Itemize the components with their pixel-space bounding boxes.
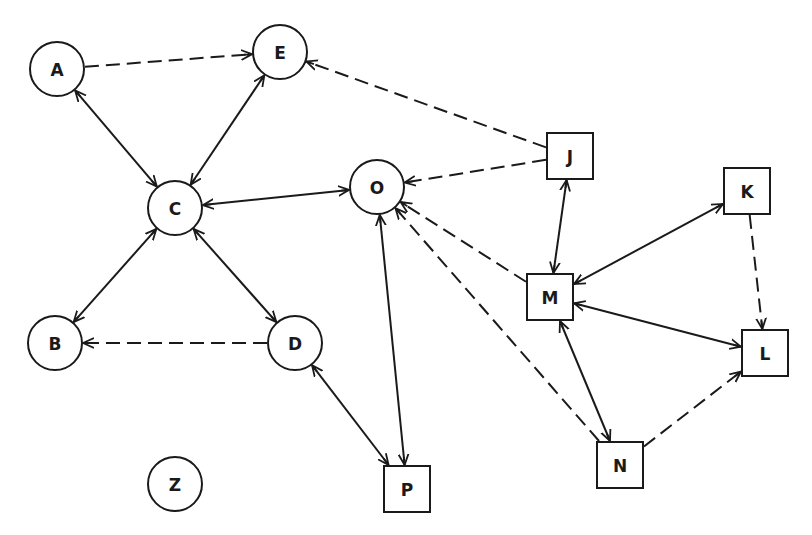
node-b: B	[28, 316, 82, 370]
node-label: C	[169, 199, 181, 219]
node-label: K	[740, 182, 754, 202]
edge-j-e	[306, 61, 546, 147]
node-l: L	[742, 330, 788, 376]
edge-n-l	[644, 372, 741, 447]
node-o: O	[350, 160, 404, 214]
edge-a-c	[75, 90, 157, 186]
edge-j-m	[553, 180, 566, 273]
node-z: Z	[148, 457, 202, 511]
edge-c-o	[203, 190, 349, 205]
node-e: E	[253, 25, 307, 79]
edge-m-n	[560, 321, 610, 441]
edge-e-c	[191, 75, 265, 185]
node-label: D	[288, 334, 302, 354]
node-label: M	[542, 288, 559, 308]
node-n: N	[597, 442, 643, 488]
edge-k-m	[574, 204, 723, 284]
graph-diagram: AECOBDZJKMLNP	[0, 0, 812, 535]
node-m: M	[527, 274, 573, 320]
edge-a-e	[85, 54, 252, 67]
node-label: N	[613, 456, 627, 476]
edge-d-p	[312, 365, 389, 465]
node-label: J	[566, 147, 573, 167]
node-label: O	[370, 178, 384, 198]
node-label: E	[274, 43, 286, 63]
edge-m-l	[574, 303, 741, 346]
node-k: K	[724, 168, 770, 214]
nodes-layer: AECOBDZJKMLNP	[28, 25, 788, 512]
edge-o-p	[380, 215, 405, 465]
edge-j-o	[405, 160, 546, 183]
node-label: Z	[169, 475, 181, 495]
node-j: J	[547, 133, 593, 179]
edges-layer	[74, 54, 763, 465]
node-label: L	[760, 344, 771, 364]
node-p: P	[384, 466, 430, 512]
edge-m-o	[401, 202, 526, 282]
node-c: C	[148, 181, 202, 235]
node-label: B	[49, 334, 62, 354]
edge-c-d	[194, 229, 277, 322]
node-a: A	[30, 42, 84, 96]
edge-n-o	[395, 208, 599, 441]
edge-k-l	[750, 215, 763, 329]
edge-c-b	[74, 229, 157, 322]
node-label: A	[50, 60, 64, 80]
node-d: D	[268, 316, 322, 370]
node-label: P	[401, 480, 413, 500]
